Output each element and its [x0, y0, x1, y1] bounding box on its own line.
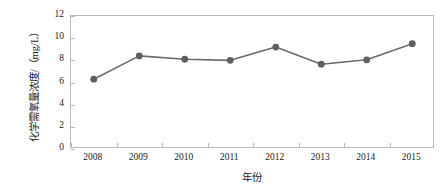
- x-axis-tick-label: 2015: [386, 152, 436, 162]
- y-axis-tick-label: 0: [38, 143, 64, 153]
- y-axis-tick-label: 6: [38, 77, 64, 87]
- data-point-marker: 2012: 9.2: [272, 44, 279, 51]
- y-axis-tick-mark: [71, 127, 75, 128]
- x-axis-tick-mark: [299, 143, 300, 147]
- x-axis-tick-label: 2014: [341, 152, 391, 162]
- data-point-marker: 2015: 9.5: [409, 40, 416, 47]
- x-axis-tick-label-group: 20082009201020112012201320142015: [70, 152, 434, 166]
- x-axis-tick-mark: [344, 143, 345, 147]
- data-series-line: 2008: 6.32009: 8.42010: 8.12011: 82012: …: [71, 16, 435, 149]
- x-axis-tick-mark: [71, 143, 72, 147]
- x-axis-tick-label: 2010: [159, 152, 209, 162]
- data-point-marker: 2008: 6.3: [90, 76, 97, 83]
- y-axis-tick-mark: [71, 149, 75, 150]
- x-axis-tick-label: 2009: [113, 152, 163, 162]
- y-axis-tick-label-group: 024681012: [38, 15, 64, 148]
- x-axis-title: 年份: [70, 169, 434, 184]
- x-axis-tick-label: 2011: [204, 152, 254, 162]
- x-axis-tick-mark: [117, 143, 118, 147]
- y-axis-tick-mark: [71, 83, 75, 84]
- y-axis-tick-label: 12: [38, 10, 64, 20]
- y-axis-tick-label: 8: [38, 55, 64, 65]
- x-axis-tick-mark: [390, 143, 391, 147]
- y-axis-tick-mark: [71, 38, 75, 39]
- data-point-marker: 2013: 7.65: [318, 61, 325, 68]
- x-axis-tick-label: 2008: [68, 152, 118, 162]
- x-axis-tick-label: 2012: [250, 152, 300, 162]
- y-axis-tick-label: 10: [38, 32, 64, 42]
- plot-area: 2008: 6.32009: 8.42010: 8.12011: 82012: …: [70, 15, 434, 148]
- y-axis-tick-label: 2: [38, 121, 64, 131]
- x-axis-tick-label: 2013: [295, 152, 345, 162]
- x-axis-tick-mark: [208, 143, 209, 147]
- data-point-marker: 2009: 8.4: [136, 53, 143, 60]
- data-point-marker: 2011: 8: [227, 57, 234, 64]
- data-point-marker: 2010: 8.1: [181, 56, 188, 63]
- y-axis-tick-mark: [71, 16, 75, 17]
- y-axis-tick-label: 4: [38, 99, 64, 109]
- data-point-marker: 2014: 8.05: [363, 56, 370, 63]
- y-axis-tick-mark: [71, 60, 75, 61]
- x-axis-tick-mark: [162, 143, 163, 147]
- chart-container: 化学需氧量浓度/（mg/L） 024681012 2008: 6.32009: …: [0, 0, 448, 189]
- x-axis-tick-mark: [253, 143, 254, 147]
- y-axis-tick-mark: [71, 105, 75, 106]
